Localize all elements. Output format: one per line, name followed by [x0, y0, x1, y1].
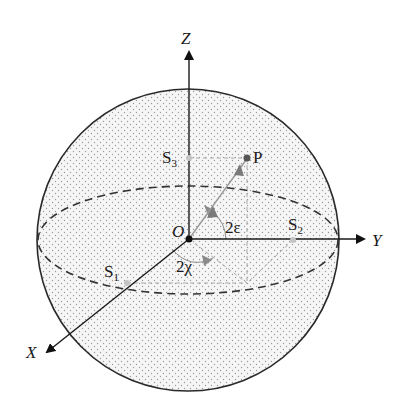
origin-point — [186, 236, 193, 243]
angle-2chi-label: 2χ — [176, 257, 193, 276]
point-P — [244, 155, 251, 162]
y-axis-label: Y — [372, 231, 383, 250]
origin-label: O — [172, 222, 184, 241]
point-S2 — [290, 237, 296, 243]
point-P-label: P — [253, 148, 262, 167]
angle-2epsilon-label: 2ε — [225, 218, 241, 237]
x-axis-label: X — [25, 343, 37, 362]
point-S3 — [186, 155, 192, 161]
point-S1 — [124, 280, 130, 286]
poincare-sphere-diagram: Z Y X O P S3 S2 S1 2ε 2χ — [0, 0, 411, 409]
z-axis-label: Z — [181, 29, 191, 48]
